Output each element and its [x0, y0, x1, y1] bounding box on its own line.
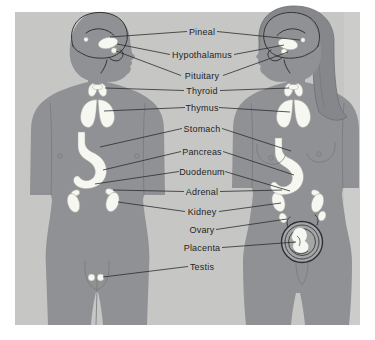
label-pituitary: Pituitary: [185, 71, 220, 81]
label-thyroid: Thyroid: [186, 86, 217, 96]
testis-gland: [97, 274, 104, 281]
male-pituitary-gland: [111, 48, 117, 54]
thyroid-isthmus: [93, 84, 103, 89]
testis-gland: [88, 274, 95, 281]
label-adrenal: Adrenal: [186, 187, 218, 197]
label-pancreas: Pancreas: [182, 147, 222, 157]
label-testis: Testis: [190, 262, 215, 272]
male-pineal-gland: [84, 37, 88, 41]
label-duodenum: Duodenum: [179, 167, 225, 177]
endocrine-diagram: Pineal Hypothalamus Pituitary Thyroid Th…: [0, 0, 375, 340]
label-kidney: Kidney: [188, 207, 217, 217]
label-thymus: Thymus: [185, 103, 219, 113]
label-stomach: Stomach: [184, 124, 221, 134]
label-placenta: Placenta: [184, 243, 221, 253]
label-hypothalamus: Hypothalamus: [172, 50, 232, 60]
endocrine-diagram-page: Pineal Hypothalamus Pituitary Thyroid Th…: [0, 0, 375, 340]
label-ovary: Ovary: [189, 225, 214, 235]
female-pineal-gland: [301, 38, 305, 42]
label-pineal: Pineal: [189, 27, 215, 37]
